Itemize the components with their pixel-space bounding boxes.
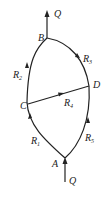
edge-R3-label: R3 [82,53,92,65]
edge-R1 [27,102,65,158]
outflow-arrow-icon [45,10,50,17]
node-D-label: D [92,79,101,90]
inflow-label: Q [69,175,77,186]
edge-R4-label: R4 [63,97,73,109]
node-C-label: C [20,100,27,111]
node-A-label: A [51,158,59,169]
inflow-arrow-icon [63,157,68,164]
edge-R2 [27,38,47,102]
outflow-label: Q [54,8,62,19]
node-B-label: B [38,32,44,43]
edge-R2-label: R2 [12,69,22,81]
arrow-R2-icon [25,62,29,68]
edge-R4 [28,86,89,104]
arrow-R4-icon [58,93,64,97]
edge-R5-label: R5 [84,132,94,144]
edge-R1-label: R1 [30,135,40,147]
flow-network-diagram: Q B R3 R2 D R4 C R1 R5 A Q [0,0,108,199]
